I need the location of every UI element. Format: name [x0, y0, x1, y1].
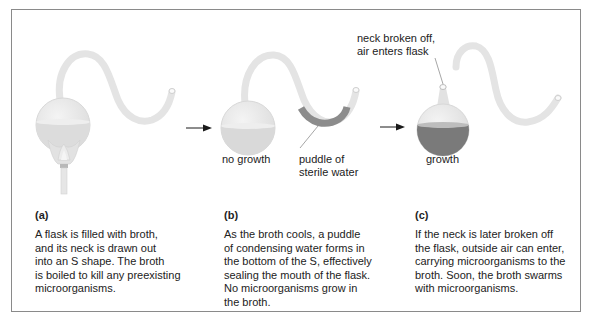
panel-c-line: with microorganisms. [415, 282, 591, 296]
panel-b-line: sealing the mouth of the flask. [224, 269, 404, 283]
panel-c-line: If the neck is later broken off [415, 228, 591, 242]
panel-b-line: the bottom of the S, effectively [224, 255, 404, 269]
panel-b-line: the broth. [224, 296, 404, 310]
growth-label: growth [426, 153, 459, 166]
no-growth-label: no growth [222, 153, 270, 166]
panel-b-line: As the broth cools, a puddle [224, 228, 404, 242]
flask-a-icon [30, 54, 175, 194]
arrow-right-icon [186, 125, 212, 132]
neck-broken-label-line2: air enters flask [357, 45, 429, 58]
panel-a-line: is boiled to kill any preexisting [35, 269, 215, 283]
panel-c-description: If the neck is later broken off the flas… [415, 228, 591, 296]
flask-b-icon [215, 55, 359, 166]
panel-a-description: A flask is filled with broth, and its ne… [35, 228, 215, 296]
panel-c-line: carrying microorganisms to the [415, 255, 591, 269]
panel-b-line: of condensing water forms in [224, 242, 404, 256]
panel-c-line: the flask, outside air can enter, [415, 242, 591, 256]
puddle-label-line2: sterile water [299, 166, 358, 179]
puddle-label-line1: puddle of [299, 153, 344, 166]
panel-c-line: broth. Soon, the broth swarms [415, 269, 591, 283]
panel-a-line: microorganisms. [35, 282, 215, 296]
panel-b-caption: (b) As the broth cools, a puddle of cond… [224, 208, 404, 310]
flask-c-icon [410, 46, 561, 165]
panel-b-tag: (b) [224, 208, 404, 222]
arrow-right-icon [380, 124, 405, 131]
panel-a-line: into an S shape. The broth [35, 255, 215, 269]
panel-a-caption: (a) A flask is filled with broth, and it… [35, 208, 215, 296]
panel-b-line: No microorganisms grow in [224, 282, 404, 296]
panel-b-description: As the broth cools, a puddle of condensi… [224, 228, 404, 310]
panel-c-tag: (c) [415, 208, 591, 222]
panel-c-caption: (c) If the neck is later broken off the … [415, 208, 591, 296]
panel-a-line: and its neck is drawn out [35, 242, 215, 256]
panel-a-line: A flask is filled with broth, [35, 228, 215, 242]
neck-broken-label-line1: neck broken off, [357, 32, 435, 45]
panel-a-tag: (a) [35, 208, 215, 222]
